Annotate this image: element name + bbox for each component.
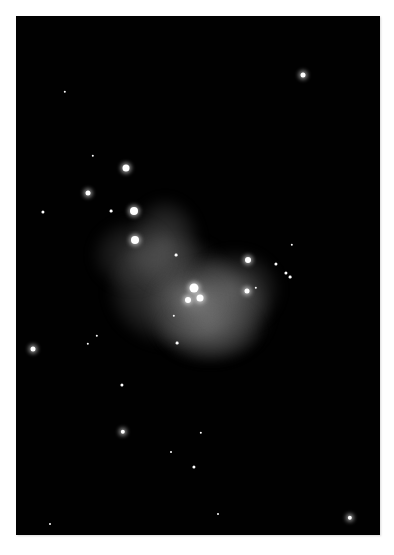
star xyxy=(110,210,113,213)
star xyxy=(41,210,44,213)
star xyxy=(130,207,138,215)
star xyxy=(217,513,219,515)
star xyxy=(31,347,36,352)
star xyxy=(49,523,51,525)
star xyxy=(284,271,287,274)
star xyxy=(121,430,125,434)
star xyxy=(192,465,195,468)
nebula-blob xyxy=(92,220,172,290)
star xyxy=(245,257,251,263)
star xyxy=(86,191,91,196)
star xyxy=(190,284,199,293)
star xyxy=(64,91,66,93)
star xyxy=(200,432,202,434)
star xyxy=(289,276,292,279)
star xyxy=(120,383,123,386)
nebula-photograph xyxy=(16,16,380,535)
star xyxy=(92,155,94,157)
star xyxy=(245,289,250,294)
star xyxy=(197,295,204,302)
star xyxy=(301,73,306,78)
star xyxy=(87,343,89,345)
star xyxy=(175,254,178,257)
star xyxy=(96,335,98,337)
star xyxy=(348,516,352,520)
star xyxy=(176,342,179,345)
star xyxy=(185,297,191,303)
star xyxy=(123,165,130,172)
star xyxy=(274,262,277,265)
star xyxy=(131,236,139,244)
star xyxy=(170,451,172,453)
star xyxy=(291,244,293,246)
